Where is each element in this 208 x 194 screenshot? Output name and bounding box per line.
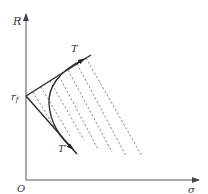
mohr-envelope-diagram: R σ O rf T T′ — [0, 0, 208, 194]
upper-arrow-icon — [76, 59, 84, 64]
upper-tangent-label: T — [71, 43, 79, 54]
origin-label: O — [17, 183, 25, 194]
rf-label: rf — [11, 91, 20, 104]
x-axis-label: σ — [188, 184, 196, 194]
y-axis-label: R — [12, 15, 21, 28]
lower-tangent-label: T′ — [58, 143, 68, 154]
envelope-curve — [49, 60, 82, 149]
